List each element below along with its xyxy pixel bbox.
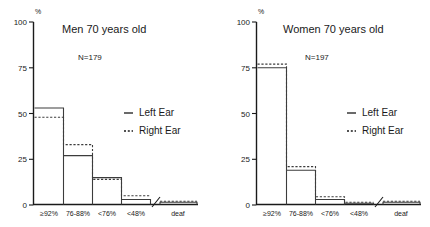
y-tick-label-100-women: 100 — [237, 18, 251, 27]
y-axis-unit-label-men: % — [35, 8, 41, 15]
y-tick-label-75-women: 75 — [241, 64, 250, 73]
x-axis-break-mark-women — [375, 197, 383, 207]
legend-label-left-ear-men: Left Ear — [139, 107, 175, 118]
sample-size-label-men: N=179 — [78, 53, 102, 62]
x-tick-label-1-women: ≥92% — [263, 210, 281, 217]
y-tick-label-50-women: 50 — [241, 110, 250, 119]
y-tick-label-50-men: 50 — [18, 110, 27, 119]
sample-size-label-women: N=197 — [305, 53, 329, 62]
legend-women: Left Ear Right Ear — [347, 107, 404, 136]
hearing-threshold-bar-chart-figure: % Men 70 years old N=179 100 75 50 25 0 — [0, 0, 430, 227]
x-tick-label-5-men: deaf — [171, 210, 185, 217]
y-tick-label-25-men: 25 — [18, 155, 27, 164]
x-tick-label-2-men: 76-88% — [66, 210, 90, 217]
y-tick-label-0-women: 0 — [246, 201, 251, 210]
x-axis-break-mark-men — [152, 197, 160, 207]
panel-title-women: Women 70 years old — [283, 23, 384, 35]
panel-title-men: Men 70 years old — [62, 23, 146, 35]
x-tick-label-4-women: <48% — [350, 210, 368, 217]
chart-panel-men: % Men 70 years old N=179 100 75 50 25 0 — [0, 0, 215, 227]
y-axis-unit-label-women: % — [258, 8, 264, 15]
x-tick-label-1-men: ≥92% — [40, 210, 58, 217]
x-tick-label-4-men: <48% — [127, 210, 145, 217]
y-tick-label-0-men: 0 — [23, 201, 28, 210]
left-ear-solid-outline-women — [258, 68, 374, 205]
x-tick-label-3-women: <76% — [321, 210, 339, 217]
x-tick-label-3-men: <76% — [98, 210, 116, 217]
x-tick-label-5-women: deaf — [394, 210, 408, 217]
y-tick-label-75-men: 75 — [18, 64, 27, 73]
legend-men: Left Ear Right Ear — [124, 107, 181, 136]
legend-label-left-ear-women: Left Ear — [362, 107, 398, 118]
y-tick-label-100-men: 100 — [14, 18, 28, 27]
x-tick-label-2-women: 76-88% — [289, 210, 313, 217]
legend-label-right-ear-women: Right Ear — [362, 125, 404, 136]
legend-label-right-ear-men: Right Ear — [139, 125, 181, 136]
y-tick-label-25-women: 25 — [241, 155, 250, 164]
chart-panel-women: % Women 70 years old N=197 100 75 50 25 … — [215, 0, 430, 227]
